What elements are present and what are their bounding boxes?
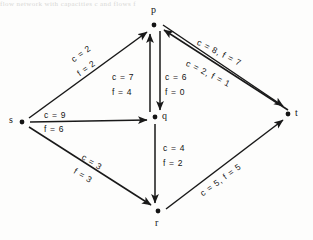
node-label-r: r — [155, 217, 158, 228]
edge-r-t — [166, 120, 283, 209]
graph-canvas — [0, 0, 313, 240]
node-label-s: s — [9, 114, 13, 125]
node-q — [153, 115, 158, 120]
edge-label-q-r-flow: f = 2 — [163, 158, 183, 168]
edge-t-p — [164, 30, 288, 110]
node-s — [20, 120, 25, 125]
node-label-p: p — [151, 4, 156, 15]
edge-label-s-q-capacity: c = 9 — [44, 110, 66, 120]
edge-label-s-q-flow: f = 6 — [44, 124, 64, 134]
edge-s-q — [30, 120, 147, 122]
edge-label-q-p-flow: f = 4 — [112, 87, 132, 97]
node-p — [152, 23, 157, 28]
edge-label-q-p-capacity: c = 7 — [112, 72, 134, 82]
flow-network-figure: flow network with capacities c and flows… — [0, 0, 313, 240]
node-label-t: t — [295, 107, 298, 118]
edge-label-q-r-capacity: c = 4 — [163, 143, 185, 153]
node-label-q: q — [162, 110, 167, 121]
node-r — [156, 209, 161, 214]
edge-label-p-q-capacity: c = 6 — [165, 72, 187, 82]
edge-label-p-q-flow: f = 0 — [165, 87, 185, 97]
node-t — [286, 112, 291, 117]
